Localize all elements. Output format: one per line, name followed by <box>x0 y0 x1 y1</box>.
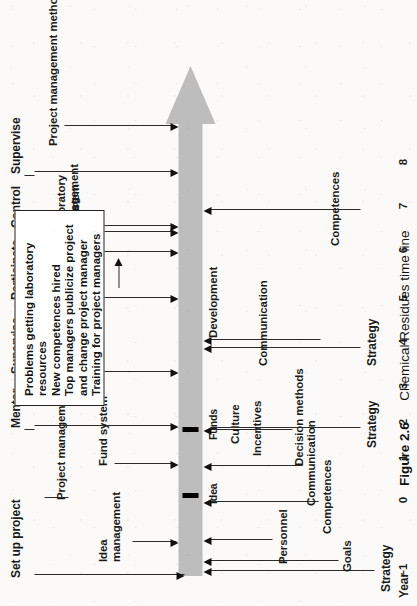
arrow-head-goals <box>203 558 211 566</box>
note-line: Problems getting laboratory <box>22 220 35 396</box>
input-label-incentives: Incentives <box>250 401 262 456</box>
input-label-competences-1: Competences <box>320 460 332 534</box>
year-tick-label: 7 <box>396 198 408 214</box>
arrow-head-supervise-1 <box>170 369 178 377</box>
input-label-fund-system-1: Fund system <box>96 396 108 466</box>
phase-header-supervise-2: Supervise <box>8 118 22 174</box>
note-line: Training for project managers <box>89 220 102 396</box>
figure-caption: Figure 2.6 Chemical Residues time line <box>396 230 411 486</box>
phase-divider <box>24 429 34 430</box>
note-line: New competences hired <box>49 220 62 396</box>
figure-caption-text: Chemical Residues time line <box>396 230 411 400</box>
input-label-strategy-3: Strategy <box>364 319 378 366</box>
year-tick-label: –1 <box>396 562 408 578</box>
note-line: and change project manager <box>76 220 89 396</box>
note-box: Problems getting laboratory resources Ne… <box>14 210 104 406</box>
drop-line-goals <box>210 560 338 561</box>
input-label-communication-1: Communication <box>304 420 316 506</box>
drop-line-fund-system-1 <box>114 463 174 464</box>
event-label-funds: Funds <box>206 409 218 440</box>
arrow-head-competences-1 <box>203 499 211 507</box>
arrow-head-supervise-2 <box>170 169 178 177</box>
arrow-head-set-up-project <box>176 572 184 580</box>
input-label-project-management-methods-2: Project management methods <box>46 0 58 146</box>
arrow-head-decision-methods <box>203 427 211 435</box>
link-line-project-structure-to-fund-system <box>118 266 119 288</box>
arrow-head-competences-2 <box>203 207 211 215</box>
year-tick-label: 0 <box>396 492 408 508</box>
input-label-culture: Culture <box>228 404 240 444</box>
phase-divider <box>24 175 34 176</box>
arrow-head-participate <box>170 295 178 303</box>
input-label-communication-2: Communication <box>256 280 268 366</box>
event-tick-funds <box>182 427 198 432</box>
drop-line-supervise-2 <box>34 171 174 172</box>
input-label-decision-methods: Decision methods <box>292 369 304 466</box>
arrow-head-fund-system-2 <box>170 249 178 257</box>
arrow-head-strategy-3 <box>203 345 211 353</box>
arrow-head-communication-2 <box>203 337 211 345</box>
input-label-personnel: Personnel <box>276 509 288 564</box>
arrow-head-fund-system-1 <box>170 461 178 469</box>
drop-line-personnel <box>210 539 272 540</box>
arrow-head-mentor <box>170 423 178 431</box>
input-label-idea-management: Idea management <box>96 498 122 562</box>
drop-line-idea-management <box>132 541 176 542</box>
drop-line-strategy-2 <box>210 427 360 428</box>
arrow-head-strategy-1 <box>203 568 211 576</box>
year-tick-label: 8 <box>396 154 408 170</box>
timeline-figure: Set up project Mentor Supervise Particip… <box>0 0 417 606</box>
drop-line-mentor <box>34 425 174 426</box>
arrow-head-communication-1 <box>203 463 211 471</box>
note-line: resources <box>35 220 48 396</box>
arrow-head-personnel <box>203 537 211 545</box>
input-label-goals: Goals <box>340 541 352 572</box>
arrow-head-control <box>170 223 178 231</box>
drop-line-strategy-3 <box>210 347 360 348</box>
input-label-strategy-2: Strategy <box>364 401 378 448</box>
drop-line-communication-1 <box>210 465 302 466</box>
phase-header-set-up-project: Set up project <box>8 499 22 578</box>
note-line: Top managers publicize project <box>62 220 75 396</box>
figure-number: Figure 2.6 <box>396 422 411 486</box>
arrow-head-idea-management <box>170 539 178 547</box>
drop-line-pmm-2 <box>64 125 174 126</box>
event-tick-idea <box>182 493 198 498</box>
drop-line-competences-1 <box>210 501 318 502</box>
input-label-strategy-1: Strategy <box>378 545 392 592</box>
drop-line-pmm-1 <box>44 497 68 498</box>
arrow-head-project-structure <box>114 258 122 266</box>
event-label-development: Development <box>206 267 218 338</box>
input-label-competences-2: Competences <box>328 172 340 246</box>
drop-line-set-up-project <box>34 574 184 575</box>
arrow-head-pmm-2 <box>170 123 178 131</box>
